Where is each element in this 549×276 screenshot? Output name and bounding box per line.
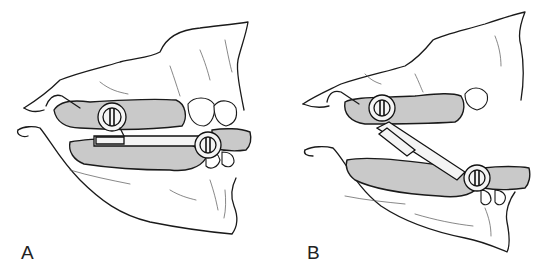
jaw-closed-illustration bbox=[0, 0, 285, 276]
panel-label-a: A bbox=[21, 242, 34, 264]
jaw-open-illustration bbox=[285, 0, 549, 276]
panel-label-b: B bbox=[307, 242, 320, 264]
panel-b: B bbox=[285, 0, 549, 276]
panel-a: A bbox=[0, 0, 285, 276]
